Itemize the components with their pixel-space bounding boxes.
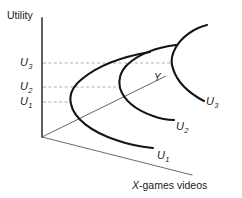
curve-label-u3-base: U	[206, 95, 214, 107]
ridge-line-label-y: Y	[154, 73, 161, 83]
y-tick-label-u1-subscript: 1	[28, 101, 32, 110]
curve-label-u3: U3	[206, 96, 218, 107]
y-tick-label-u3-base: U	[20, 56, 28, 68]
y-tick-label-u2: U2	[20, 81, 32, 92]
y-tick-label-u3-subscript: 3	[28, 62, 32, 71]
x-axis-label-rest: -games videos	[139, 179, 207, 191]
y-tick-label-u1-base: U	[20, 95, 28, 107]
indifference-curve-figure: Utility X-games videos U3 U2 U1 U3 U2 U1…	[0, 0, 242, 198]
x-axis-label-italic-part: X	[132, 179, 139, 191]
curve-label-u2: U2	[176, 121, 188, 132]
curve-label-u1-subscript: 1	[165, 155, 169, 164]
curve-label-u2-subscript: 2	[184, 126, 188, 135]
y-tick-label-u1: U1	[20, 96, 32, 107]
curve-label-u1: U1	[157, 150, 169, 161]
y-tick-label-u2-base: U	[20, 80, 28, 92]
curve-label-u1-base: U	[157, 149, 165, 161]
x-axis-label: X-games videos	[132, 180, 207, 191]
curve-u1	[70, 52, 153, 148]
y-axis-label: Utility	[7, 10, 33, 21]
curve-label-u2-base: U	[176, 120, 184, 132]
y-tick-label-u3: U3	[20, 57, 32, 68]
curve-label-u3-subscript: 3	[214, 101, 218, 110]
y-tick-label-u2-subscript: 2	[28, 86, 32, 95]
x-axis	[42, 137, 192, 175]
curve-u3	[172, 25, 207, 101]
ridge-line	[42, 76, 166, 137]
